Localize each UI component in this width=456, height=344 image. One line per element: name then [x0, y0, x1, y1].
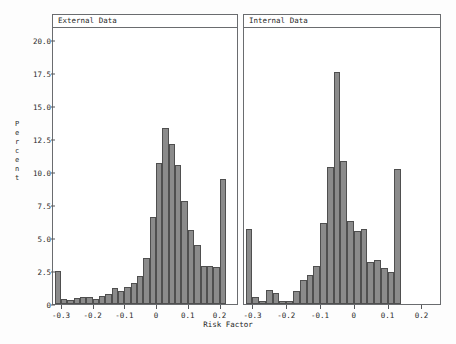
histogram-bar — [354, 231, 361, 304]
y-axis-tick-label: 20.0 — [23, 37, 51, 46]
x-axis-tick-mark — [124, 305, 125, 309]
y-axis-tick-label: 5.0 — [23, 235, 51, 244]
y-axis-tick-label: 7.5 — [23, 202, 51, 211]
histogram-bar — [252, 297, 259, 304]
y-axis-tick-mark — [51, 107, 55, 108]
plot-area — [243, 28, 441, 305]
histogram-bar — [394, 169, 401, 304]
x-axis-tick-label: 0.1 — [181, 311, 195, 320]
y-axis-tick-mark — [51, 206, 55, 207]
histogram-bar — [381, 268, 388, 304]
histogram-bar — [307, 275, 314, 304]
histogram-bar — [259, 301, 266, 304]
histogram-bar — [273, 293, 280, 304]
x-axis-tick-label: -0.1 — [115, 311, 133, 320]
x-axis-tick-mark — [388, 305, 389, 309]
histogram-bar — [347, 221, 354, 304]
histogram-bar — [220, 179, 226, 304]
histogram-bar — [320, 223, 327, 304]
panel-internal-data: Internal Data — [243, 14, 441, 305]
y-axis-tick-mark — [51, 140, 55, 141]
y-axis-tick-label: 12.5 — [23, 136, 51, 145]
y-axis-tick-label: 17.5 — [23, 70, 51, 79]
x-axis-tick-label: -0.1 — [311, 311, 329, 320]
x-axis-tick-label: 0.2 — [415, 311, 429, 320]
y-axis-tick-mark — [51, 305, 55, 306]
x-axis-tick-mark — [252, 305, 253, 309]
y-axis-tick-mark — [51, 239, 55, 240]
histogram-bar — [300, 280, 307, 304]
histogram-bar — [286, 301, 293, 304]
y-axis-tick-mark — [51, 74, 55, 75]
histogram-bar — [340, 161, 347, 304]
panel-external-data: External Data — [52, 14, 238, 305]
x-axis-tick-mark — [61, 305, 62, 309]
x-axis-tick-mark — [93, 305, 94, 309]
x-axis-label: Risk Factor — [178, 320, 278, 329]
panel-title: External Data — [52, 14, 238, 28]
y-axis-tick-label: 0 — [23, 301, 51, 310]
y-axis-tick-mark — [51, 272, 55, 273]
x-axis-tick-mark — [320, 305, 321, 309]
y-axis-tick-label: 15.0 — [23, 103, 51, 112]
panel-title: Internal Data — [243, 14, 441, 28]
x-axis-tick-mark — [188, 305, 189, 309]
x-axis-tick-label: 0.2 — [213, 311, 227, 320]
x-axis-tick-label: 0 — [154, 311, 159, 320]
x-axis-tick-label: -0.3 — [52, 311, 70, 320]
histogram-bar — [313, 266, 320, 304]
histogram-bar — [279, 301, 286, 304]
histogram-bar — [293, 291, 300, 304]
histogram-bar — [361, 229, 368, 304]
y-axis-tick-mark — [51, 41, 55, 42]
histogram-bar — [266, 290, 273, 304]
x-axis-tick-label: -0.2 — [277, 311, 295, 320]
histogram-bar — [388, 272, 395, 304]
x-axis-tick-mark — [354, 305, 355, 309]
x-axis-tick-mark — [286, 305, 287, 309]
x-axis-tick-mark — [220, 305, 221, 309]
histogram-bar — [334, 72, 341, 304]
histogram-figure: Percent 02.55.07.510.012.515.017.520.0 E… — [0, 0, 456, 344]
y-axis-ticks: 02.55.07.510.012.515.017.520.0 — [21, 0, 51, 344]
x-axis-tick-mark — [156, 305, 157, 309]
histogram-bar — [327, 167, 334, 304]
x-axis-tick-label: 0.1 — [381, 311, 395, 320]
plot-area — [52, 28, 238, 305]
histogram-bar — [246, 229, 253, 304]
x-axis-tick-label: -0.3 — [243, 311, 261, 320]
x-axis-tick-label: -0.2 — [84, 311, 102, 320]
bars-group — [53, 28, 237, 304]
y-axis-tick-label: 10.0 — [23, 169, 51, 178]
histogram-bar — [367, 262, 374, 304]
x-axis-tick-label: 0 — [352, 311, 357, 320]
x-axis-tick-mark — [421, 305, 422, 309]
y-axis-tick-label: 2.5 — [23, 268, 51, 277]
bars-group — [244, 28, 440, 304]
histogram-bar — [374, 260, 381, 304]
y-axis-tick-mark — [51, 173, 55, 174]
